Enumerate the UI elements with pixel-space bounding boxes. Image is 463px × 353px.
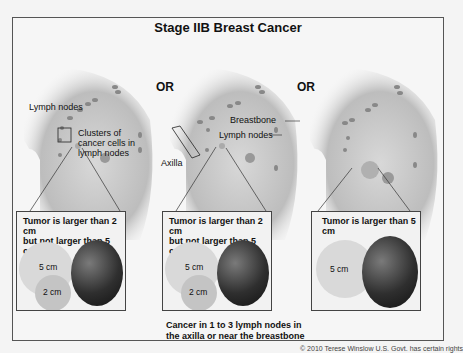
or-separator-1: OR xyxy=(156,80,174,94)
label-clusters-line-1: Clusters of xyxy=(78,128,135,138)
label-5cm-2: 5 cm xyxy=(185,262,203,272)
or-separator-2: OR xyxy=(297,80,315,94)
copyright-notice: © 2010 Terese Winslow U.S. Govt. has cer… xyxy=(300,345,463,352)
label-5cm-1: 5 cm xyxy=(39,262,57,272)
label-lymph-nodes-1: Lymph nodes xyxy=(29,102,83,112)
lymph-node-footnote: Cancer in 1 to 3 lymph nodes in the axil… xyxy=(166,320,305,342)
footnote-line-2: the axilla or near the breastbone xyxy=(166,331,305,342)
tumor-caption-3-line-1: Tumor is larger than 5 cm xyxy=(322,216,420,236)
tumor-caption-1-line-1: Tumor is larger than 2 cm xyxy=(23,216,125,236)
label-breastbone: Breastbone xyxy=(230,115,276,125)
label-2cm-2: 2 cm xyxy=(189,287,207,297)
tumor-size-box-3: Tumor is larger than 5 cm 5 cm xyxy=(311,211,421,311)
tumor-caption-3: Tumor is larger than 5 cm xyxy=(322,216,420,236)
label-2cm-1: 2 cm xyxy=(43,287,61,297)
tumor-size-box-2: Tumor is larger than 2 cm but not larger… xyxy=(162,211,272,311)
label-5cm-3: 5 cm xyxy=(330,264,348,274)
label-clusters-line-3: lymph nodes xyxy=(78,148,135,158)
label-lymph-nodes-2: Lymph nodes xyxy=(219,130,273,140)
tumor-illustration-3 xyxy=(362,236,418,308)
tumor-illustration-2 xyxy=(217,240,269,306)
tumor-caption-2-line-1: Tumor is larger than 2 cm xyxy=(169,216,271,236)
footnote-line-1: Cancer in 1 to 3 lymph nodes in xyxy=(166,320,305,331)
label-axilla: Axilla xyxy=(161,158,183,168)
label-clusters-line-2: cancer cells in xyxy=(78,138,135,148)
label-clusters: Clusters of cancer cells in lymph nodes xyxy=(78,128,135,158)
tumor-size-box-1: Tumor is larger than 2 cm but not larger… xyxy=(16,211,126,311)
tumor-illustration-1 xyxy=(71,240,123,306)
